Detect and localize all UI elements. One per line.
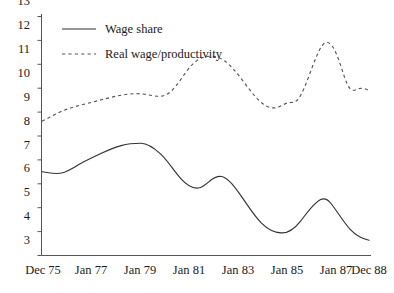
y-tick-label-7: 7 xyxy=(6,139,30,152)
x-tick-label-dec-88: Dec 88 xyxy=(339,264,394,277)
chart-canvas xyxy=(0,0,394,293)
y-tick-marks xyxy=(38,17,42,256)
y-tick-label-13: 13 xyxy=(6,0,30,8)
legend-label-wage-share: Wage share xyxy=(105,23,163,36)
chart-figure: 3 4 5 6 7 8 9 10 11 12 13 Dec 75 Jan 77 … xyxy=(0,0,394,293)
y-tick-label-11: 11 xyxy=(6,43,30,56)
y-tick-label-3: 3 xyxy=(6,234,30,247)
legend-label-real-wage-productivity: Real wage/productivity xyxy=(105,48,222,61)
y-tick-label-4: 4 xyxy=(6,210,30,223)
y-tick-label-10: 10 xyxy=(6,67,30,80)
y-tick-label-6: 6 xyxy=(6,162,30,175)
y-tick-label-12: 12 xyxy=(6,19,30,32)
series-line-wage-share xyxy=(42,143,369,240)
y-tick-label-8: 8 xyxy=(6,115,30,128)
y-tick-label-9: 9 xyxy=(6,91,30,104)
y-tick-label-5: 5 xyxy=(6,186,30,199)
